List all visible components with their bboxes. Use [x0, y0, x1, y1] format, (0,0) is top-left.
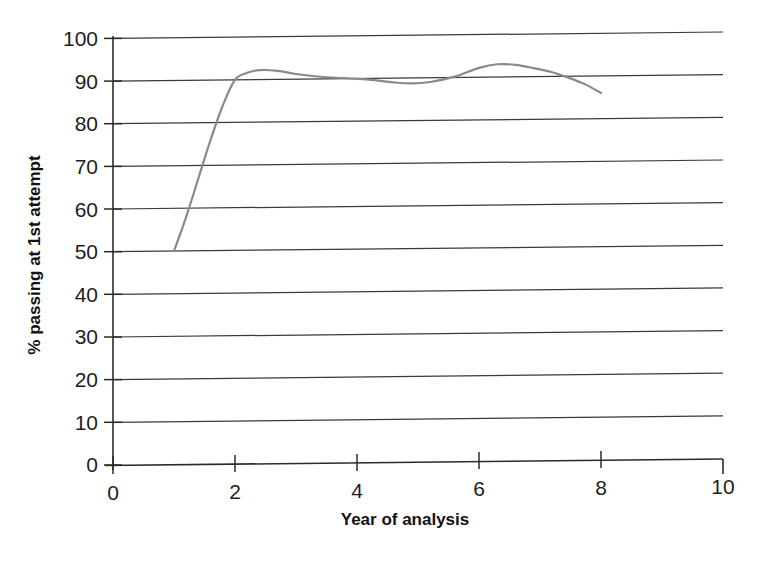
x-tick-label-4: 4 [351, 479, 363, 502]
x-tick-label-10: 10 [711, 475, 734, 498]
line-chart-figure: 100 90 80 70 60 50 40 30 20 10 0 0 2 4 6… [0, 0, 765, 566]
x-tick-label-2: 2 [229, 480, 241, 503]
gridline-20 [113, 373, 723, 379]
x-tick-marks [113, 451, 601, 474]
x-axis-title: Year of analysis [341, 510, 470, 529]
gridline-50 [113, 245, 723, 251]
chart-container: 100 90 80 70 60 50 40 30 20 10 0 0 2 4 6… [0, 0, 765, 566]
y-tick-label-10: 10 [75, 411, 98, 434]
y-tick-label-70: 70 [75, 155, 98, 178]
gridline-90 [113, 75, 723, 81]
x-tick-label-6: 6 [473, 477, 485, 500]
y-tick-label-0: 0 [86, 453, 98, 476]
gridline-40 [113, 288, 723, 294]
gridline-60 [113, 203, 723, 209]
y-tick-label-80: 80 [75, 112, 98, 135]
data-series-line [174, 64, 601, 251]
gridline-80 [113, 117, 723, 123]
y-tick-label-20: 20 [75, 368, 98, 391]
x-axis-line [105, 459, 723, 466]
y-axis-title: % passing at 1st attempt [25, 155, 44, 355]
y-tick-label-40: 40 [75, 283, 98, 306]
gridline-100 [113, 32, 723, 38]
y-tick-label-90: 90 [75, 70, 98, 93]
y-tick-label-30: 30 [75, 325, 98, 348]
gridlines [113, 32, 723, 422]
y-tick-label-60: 60 [75, 198, 98, 221]
x-tick-label-8: 8 [595, 476, 607, 499]
y-tick-label-50: 50 [75, 240, 98, 263]
x-tick-label-0: 0 [107, 481, 119, 504]
gridline-30 [113, 331, 723, 337]
y-tick-label-100: 100 [63, 27, 98, 50]
y-tick-labels: 100 90 80 70 60 50 40 30 20 10 0 [63, 27, 98, 476]
gridline-10 [113, 416, 723, 422]
x-tick-labels: 0 2 4 6 8 10 [107, 475, 735, 504]
